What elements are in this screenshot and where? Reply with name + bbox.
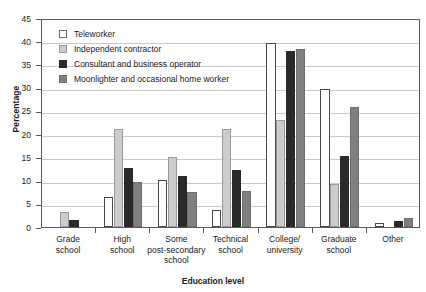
bar bbox=[276, 120, 285, 227]
bar bbox=[375, 223, 384, 227]
bar bbox=[350, 107, 359, 227]
y-tick-label: 40 bbox=[5, 38, 31, 47]
bar bbox=[60, 212, 69, 227]
y-tick-mark bbox=[36, 228, 41, 229]
bar bbox=[266, 43, 275, 227]
y-tick-label: 35 bbox=[5, 61, 31, 70]
y-tick-label: 20 bbox=[5, 131, 31, 140]
bar bbox=[320, 89, 329, 227]
legend-label: Independent contractor bbox=[74, 44, 161, 54]
bar bbox=[296, 49, 305, 227]
legend-item: Teleworker bbox=[59, 26, 229, 41]
legend-label: Moonlighter and occasional home worker bbox=[74, 74, 229, 84]
bar-group bbox=[375, 20, 414, 227]
x-cat-label-line: Other bbox=[358, 234, 426, 245]
y-tick-label: 5 bbox=[5, 200, 31, 209]
bar-chart: Percentage 051015202530354045 Gradeschoo… bbox=[0, 0, 426, 292]
bar bbox=[340, 156, 349, 227]
bar bbox=[222, 129, 231, 227]
bar-group bbox=[266, 20, 305, 227]
legend-item: Independent contractor bbox=[59, 41, 229, 56]
x-cat-label-line: school bbox=[141, 255, 211, 266]
bar bbox=[404, 218, 413, 227]
bar bbox=[168, 157, 177, 227]
y-tick-label: 10 bbox=[5, 177, 31, 186]
y-tick-label: 45 bbox=[5, 15, 31, 24]
bar bbox=[394, 221, 403, 227]
x-axis-title: Education level bbox=[0, 276, 426, 286]
bar bbox=[187, 192, 196, 227]
bar bbox=[114, 129, 123, 227]
bar bbox=[212, 210, 221, 227]
bar bbox=[286, 51, 295, 227]
bar bbox=[133, 182, 142, 227]
legend-label: Teleworker bbox=[74, 29, 115, 39]
chart-legend: TeleworkerIndependent contractorConsulta… bbox=[59, 26, 229, 86]
y-tick-label: 15 bbox=[5, 154, 31, 163]
bar bbox=[330, 184, 339, 227]
bar bbox=[69, 220, 78, 227]
x-tick-mark bbox=[203, 228, 204, 233]
x-cat-label-line: school bbox=[304, 245, 374, 256]
y-tick-label: 0 bbox=[5, 224, 31, 233]
bar bbox=[124, 168, 133, 227]
legend-item: Moonlighter and occasional home worker bbox=[59, 71, 229, 86]
legend-swatch-icon bbox=[59, 45, 67, 53]
bar bbox=[232, 170, 241, 227]
y-tick-label: 30 bbox=[5, 84, 31, 93]
legend-swatch-icon bbox=[59, 30, 67, 38]
bar bbox=[158, 180, 167, 227]
bar bbox=[178, 176, 187, 227]
x-tick-mark bbox=[312, 228, 313, 233]
legend-item: Consultant and business operator bbox=[59, 56, 229, 71]
x-tick-mark bbox=[149, 228, 150, 233]
x-tick-mark bbox=[95, 228, 96, 233]
bar bbox=[242, 191, 251, 227]
legend-swatch-icon bbox=[59, 75, 67, 83]
x-cat-label: Other bbox=[358, 234, 426, 245]
legend-label: Consultant and business operator bbox=[74, 59, 201, 69]
bar-group bbox=[320, 20, 359, 227]
bar bbox=[104, 197, 113, 227]
x-tick-mark bbox=[366, 228, 367, 233]
x-tick-mark bbox=[258, 228, 259, 233]
y-tick-label: 25 bbox=[5, 107, 31, 116]
legend-swatch-icon bbox=[59, 60, 67, 68]
